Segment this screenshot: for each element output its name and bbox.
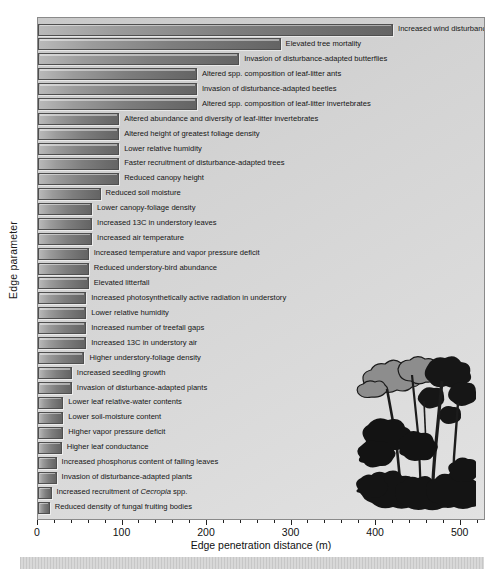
bar-label: Increased phosphorus content of falling … [62, 456, 219, 468]
bar [38, 38, 281, 50]
bar [38, 113, 119, 125]
bar-label: Elevated litterfall [94, 277, 150, 289]
bar-label: Invasion of disturbance-adapted beetles [202, 83, 337, 95]
x-axis-minor-tick [71, 520, 72, 523]
x-axis-minor-tick [392, 520, 393, 523]
bar [38, 98, 197, 110]
x-axis-minor-tick [189, 520, 190, 523]
bar [38, 412, 63, 424]
bar [38, 24, 393, 36]
bar [38, 263, 89, 275]
x-axis-tick [375, 520, 376, 525]
bar [38, 158, 119, 170]
bar-label: Lower soil-moisture content [68, 411, 161, 423]
bar-label: Faster recruitment of disturbance-adapte… [124, 157, 284, 169]
bar-label: Reduced understory-bird abundance [94, 262, 217, 274]
bar [38, 218, 92, 230]
bar-label: Higher understory-foliage density [89, 352, 200, 364]
bar [38, 307, 86, 319]
edge-effects-bar-chart: Edge parameter Increased wind disturbanc… [0, 0, 502, 570]
x-axis-tick [206, 520, 207, 525]
x-axis-minor-tick [223, 520, 224, 523]
x-axis-minor-tick [274, 520, 275, 523]
bar-label: Increased wind disturbance [398, 23, 485, 35]
bar [38, 248, 89, 260]
x-axis-minor-tick [240, 520, 241, 523]
bar [38, 277, 89, 289]
bar [38, 487, 52, 499]
bar-label: Increased photosynthetically active radi… [91, 292, 286, 304]
x-axis: 0100200300400500 [37, 520, 485, 521]
x-axis-minor-tick [105, 520, 106, 523]
bar-label: Lower relative humidity [91, 307, 169, 319]
x-axis-minor-tick [341, 520, 342, 523]
bar-label: Reduced density of fungal fruiting bodie… [55, 501, 192, 513]
bar-label: Lower relative humidity [124, 143, 202, 155]
bar-label: Altered spp. composition of leaf-litter … [202, 98, 371, 110]
y-axis-title: Edge parameter [2, 0, 24, 520]
x-axis-tick-label: 200 [197, 526, 215, 538]
bar-row: Reduced density of fungal fruiting bodie… [38, 500, 485, 517]
x-axis-tick-label: 0 [34, 526, 40, 538]
bar-label: Higher leaf conductance [67, 441, 149, 453]
x-axis-minor-tick [54, 520, 55, 523]
bar-label: Lower canopy-foliage density [97, 202, 195, 214]
plot-area: Increased wind disturbanceElevated tree … [37, 17, 485, 520]
bar-label: Increased air temperature [97, 232, 184, 244]
bar-label: Increased 13C in understory air [91, 337, 197, 349]
x-axis-minor-tick [307, 520, 308, 523]
bar [38, 128, 119, 140]
x-axis-minor-tick [426, 520, 427, 523]
bar [38, 472, 57, 484]
x-axis-minor-tick [138, 520, 139, 523]
bar-label: Altered height of greatest foliage densi… [124, 128, 260, 140]
bar [38, 143, 119, 155]
bar [38, 188, 101, 200]
x-axis-minor-tick [155, 520, 156, 523]
x-axis-tick [460, 520, 461, 525]
page-edge-strip [20, 557, 484, 569]
bar-label: Invasion of disturbance-adapted plants [77, 382, 207, 394]
bar [38, 382, 72, 394]
bar [38, 233, 92, 245]
bar-label: Higher vapor pressure deficit [68, 426, 165, 438]
x-axis-minor-tick [477, 520, 478, 523]
bar-label: Altered spp. composition of leaf-litter … [202, 68, 341, 80]
bar [38, 427, 63, 439]
bar [38, 83, 197, 95]
bar [38, 53, 239, 65]
bar [38, 292, 86, 304]
y-axis-title-text: Edge parameter [7, 221, 19, 299]
bar [38, 502, 50, 514]
bar-label: Increased number of treefall gaps [91, 322, 204, 334]
bar [38, 337, 86, 349]
bar-label: Altered abundance and diversity of leaf-… [124, 113, 318, 125]
bar-label: Reduced canopy height [124, 172, 204, 184]
x-axis-tick [291, 520, 292, 525]
bar-label: Reduced soil moisture [106, 187, 181, 199]
bar [38, 68, 197, 80]
x-axis-minor-tick [172, 520, 173, 523]
bar-label: Elevated tree mortality [286, 38, 362, 50]
x-axis-tick-label: 500 [451, 526, 469, 538]
x-axis-tick [37, 520, 38, 525]
bar [38, 397, 63, 409]
bar-label: Increased 13C in understory leaves [97, 217, 216, 229]
bar-label: Increased seedling growth [77, 367, 166, 379]
x-axis-title: Edge penetration distance (m) [37, 539, 485, 551]
x-axis-minor-tick [358, 520, 359, 523]
x-axis-tick-label: 400 [366, 526, 384, 538]
bar-label: Invasion of disturbance-adapted butterfl… [244, 53, 387, 65]
bar [38, 457, 57, 469]
x-axis-minor-tick [443, 520, 444, 523]
bar [38, 203, 92, 215]
x-axis-tick [122, 520, 123, 525]
x-axis-tick-label: 100 [113, 526, 131, 538]
x-axis-tick-label: 300 [282, 526, 300, 538]
bar [38, 367, 72, 379]
bar [38, 322, 86, 334]
bar-series: Increased wind disturbanceElevated tree … [38, 18, 484, 519]
bar [38, 173, 119, 185]
bar [38, 442, 62, 454]
x-axis-minor-tick [257, 520, 258, 523]
